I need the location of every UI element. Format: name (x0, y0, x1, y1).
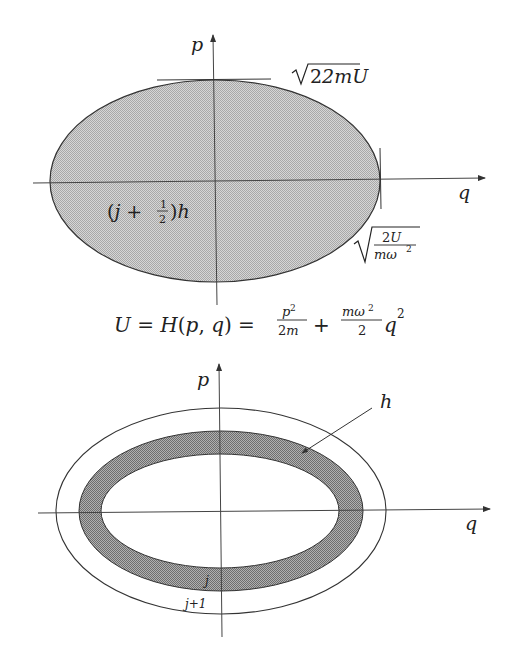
sqrt-denominator-exp: 2 (406, 244, 412, 254)
svg-text:)h: )h (170, 200, 190, 222)
top-tangent-tick (157, 79, 271, 80)
sqrt-numerator: 2U (382, 230, 402, 245)
svg-text:(j +: (j + (107, 200, 142, 222)
h-pointer-arrow (302, 408, 372, 453)
svg-text:U = H(p, q) =: U = H(p, q) = (114, 313, 255, 337)
q-axis-bottom (38, 509, 490, 513)
sqrt-2mU-label: 22mU (292, 64, 369, 87)
sqrt-2mU-text: 22mU (310, 65, 369, 87)
q-axis-label-bottom: q (465, 512, 477, 534)
half-num: 1 (160, 198, 167, 211)
q-axis-label: q (458, 181, 470, 203)
plus-sign: + (313, 313, 330, 337)
sqrt-denominator: mω (374, 247, 397, 262)
frac2-numerator: mω (342, 304, 365, 319)
frac1-numerator-exp: 2 (290, 303, 296, 313)
sqrt-2U-over-mw2-label: 2U mω 2 (354, 227, 420, 262)
top-diagram: p q 22mU 2U mω 2 (j + 1 2 )h (33, 33, 485, 305)
p-axis-label-bottom: p (197, 368, 209, 390)
p-axis-bottom (219, 364, 222, 637)
right-tangent-tick (380, 148, 381, 209)
hamiltonian-equation: U = H(p, q) = p 2 2m + mω 2 2 q 2 (114, 303, 405, 338)
h-label: h (380, 390, 392, 412)
bottom-diagram: p q h j j+1 (38, 364, 490, 637)
svg-text:2m: 2m (278, 323, 299, 338)
tail-exp: 2 (397, 307, 405, 321)
half-den: 2 (159, 213, 166, 226)
j-plus-1-label: j+1 (182, 597, 206, 611)
tail-q: q (384, 313, 397, 337)
frac2-numerator-exp: 2 (368, 303, 374, 313)
p-axis-label: p (191, 33, 203, 55)
frac2-denominator: 2 (358, 323, 366, 338)
phase-space-figure: p q 22mU 2U mω 2 (j + 1 2 )h U = H( (0, 0, 512, 655)
